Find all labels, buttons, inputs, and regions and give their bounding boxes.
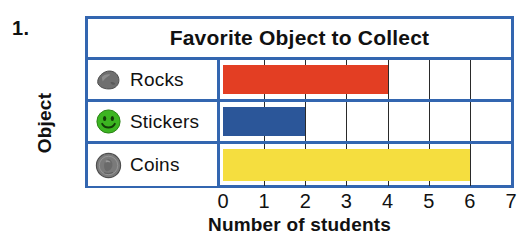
row-plot-cell-rocks [223,60,511,99]
gridline [388,102,389,141]
x-tick-label: 3 [333,190,359,213]
plot-area: Rocks Stickers [88,60,511,185]
gridline [470,144,471,186]
x-axis-title: Number of students [85,214,514,236]
x-tick-label: 1 [251,190,277,213]
row-label-text: Coins [130,154,180,176]
gridline [470,60,471,99]
gridline [470,102,471,141]
gridline [429,102,430,141]
row-label-cell-rocks: Rocks [88,60,220,99]
row-plot-cell-stickers [223,102,511,141]
gridline [346,102,347,141]
x-tick-label: 0 [210,190,236,213]
row-label-text: Rocks [130,69,184,91]
problem-number: 1. [12,17,30,40]
y-axis-title: Object [34,58,56,188]
rock-icon [94,65,123,94]
bar-rocks [223,65,388,94]
chart-title: Favorite Object to Collect [170,26,430,50]
gridline [388,60,389,99]
x-axis-ticks: 01234567 [85,190,514,216]
x-tick-label: 5 [416,190,442,213]
x-tick-label: 4 [375,190,401,213]
row-label-cell-coins: Coins [88,144,220,186]
x-tick-label: 2 [292,190,318,213]
x-tick-label: 6 [457,190,483,213]
row-label-cell-stickers: Stickers [88,102,220,141]
bar-stickers [223,107,305,136]
coin-icon [94,151,123,180]
sticker-icon [94,107,123,136]
gridline [429,60,430,99]
chart-title-band: Favorite Object to Collect [88,19,511,60]
chart-row: Stickers [88,102,511,144]
bar-coins [223,149,470,181]
gridline [305,102,306,141]
bar-chart: Favorite Object to Collect Rocks [85,16,514,188]
row-label-text: Stickers [130,111,199,133]
chart-row: Rocks [88,60,511,102]
chart-row: Coins [88,144,511,186]
x-tick-label: 7 [498,190,524,213]
row-plot-cell-coins [223,144,511,186]
